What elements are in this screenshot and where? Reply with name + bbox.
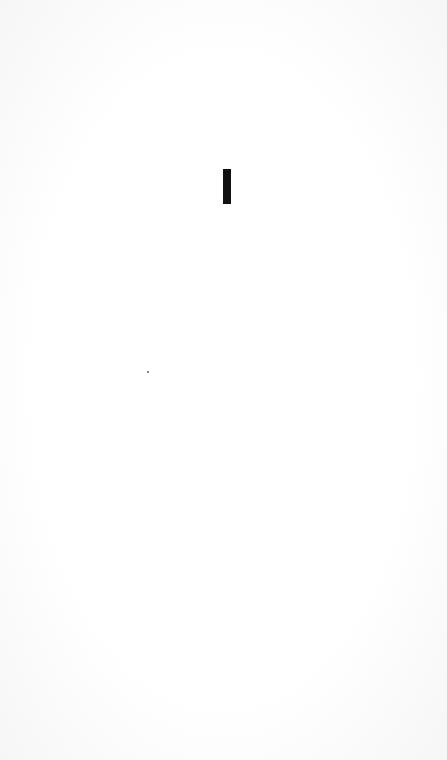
- blank-page: [0, 0, 447, 760]
- text-cursor-icon: [223, 169, 231, 204]
- speck: [147, 371, 149, 373]
